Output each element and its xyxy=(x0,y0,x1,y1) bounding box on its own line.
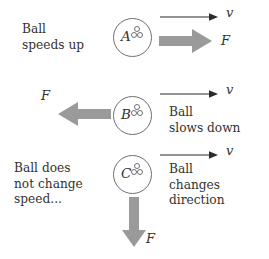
ball-c-letter: C xyxy=(121,165,131,181)
row-a-force-arrow-icon xyxy=(159,28,215,54)
row-c-left-caption: Ball does not change speed... xyxy=(14,161,83,208)
row-c-force-label: F xyxy=(146,231,155,246)
ball-b-dot-bottom-right xyxy=(137,110,143,116)
ball-b: B xyxy=(113,96,152,135)
row-b-right-caption: Ball slows down xyxy=(169,105,240,136)
ball-c-dot-bottom-right xyxy=(137,169,143,175)
row-c-velocity-label: v xyxy=(226,143,233,158)
row-c-right-caption: Ball changes direction xyxy=(169,162,225,209)
row-b-velocity-label: v xyxy=(226,82,233,97)
row-b-force-arrow-icon xyxy=(58,101,114,127)
ball-c: C xyxy=(113,155,152,194)
row-a-force-label: F xyxy=(221,33,230,48)
row-b-velocity-arrow-icon xyxy=(160,87,222,101)
ball-b-letter: B xyxy=(121,106,131,122)
physics-diagram-figure: Ball speeds up A v F F B v Ball slows do… xyxy=(0,0,269,259)
row-b-force-label: F xyxy=(41,88,50,103)
row-a-velocity-label: v xyxy=(226,5,233,20)
ball-a-dot-bottom-right xyxy=(137,32,143,38)
ball-a: A xyxy=(113,18,152,57)
row-c-velocity-arrow-icon xyxy=(160,148,222,162)
row-a-left-caption: Ball speeds up xyxy=(22,22,84,53)
row-a-velocity-arrow-icon xyxy=(160,10,222,24)
row-c-force-arrow-icon xyxy=(121,197,147,249)
ball-a-letter: A xyxy=(121,28,131,44)
